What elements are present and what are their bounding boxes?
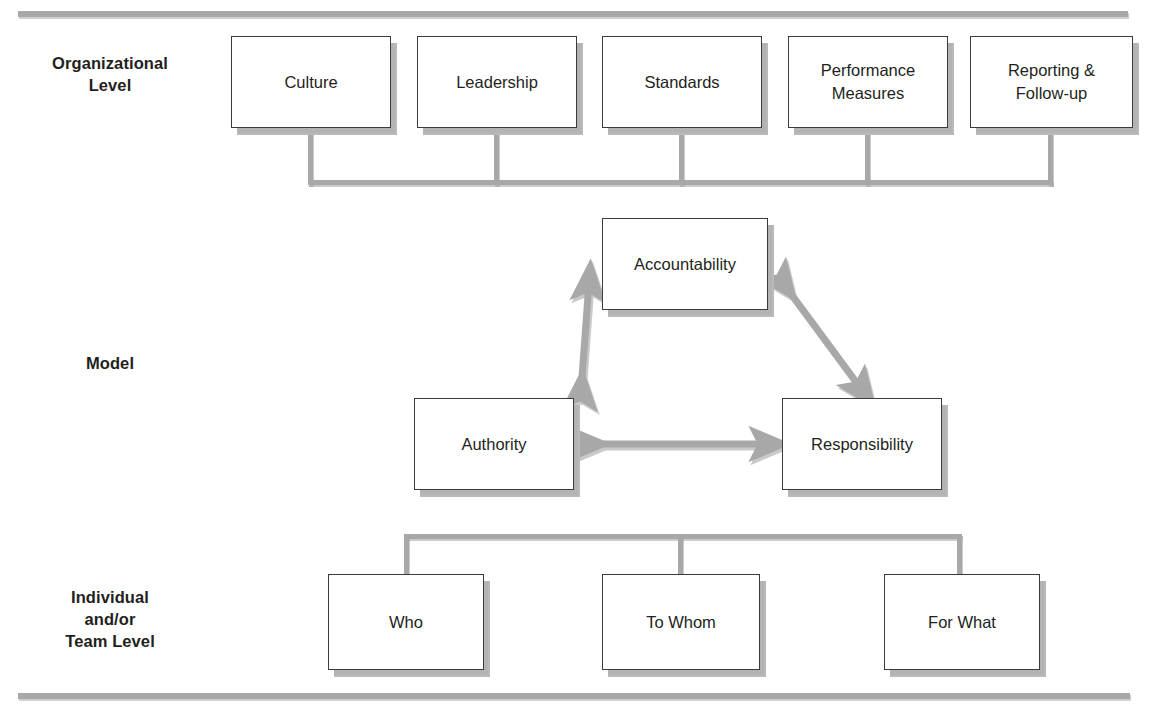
connector-stem-who [404,534,409,576]
node-for-what[interactable]: For What [884,574,1040,670]
node-culture[interactable]: Culture [231,36,391,128]
node-culture-label: Culture [280,71,341,94]
connector-stem-culture [308,128,313,185]
node-authority-label: Authority [457,433,530,456]
node-accountability-label: Accountability [630,253,740,276]
node-responsibility-label: Responsibility [807,433,917,456]
connector-stem-reporting [1048,128,1053,185]
node-accountability[interactable]: Accountability [602,218,768,310]
arrow-accountability-responsibility [783,283,862,390]
node-performance-measures[interactable]: Performance Measures [788,36,948,128]
node-leadership[interactable]: Leadership [417,36,577,128]
connector-stem-standards [679,128,684,185]
node-performance-measures-label: Performance Measures [817,59,919,105]
arrow-authority-accountability [581,282,589,391]
node-who[interactable]: Who [328,574,484,670]
top-divider-rule [18,11,1128,17]
node-for-what-label: For What [924,611,1000,634]
row-label-organizational-level: Organizational Level [0,52,220,96]
node-leadership-label: Leadership [452,71,542,94]
node-standards-label: Standards [640,71,723,94]
node-reporting-follow-up-label: Reporting & Follow-up [1004,59,1099,105]
node-to-whom[interactable]: To Whom [602,574,760,670]
node-responsibility[interactable]: Responsibility [782,398,942,490]
connector-stem-to-whom [678,534,683,576]
row-label-individual-team-level: Individual and/or Team Level [0,586,220,652]
connector-bar-organizational [308,180,1053,185]
connector-stem-leadership [494,128,499,185]
bottom-divider-rule [18,693,1130,699]
node-reporting-follow-up[interactable]: Reporting & Follow-up [970,36,1133,128]
row-label-model: Model [0,352,220,374]
connector-stem-for-what [957,534,962,576]
connector-bar-individual [404,534,962,539]
node-who-label: Who [385,611,427,634]
connector-stem-performance [865,128,870,185]
node-to-whom-label: To Whom [642,611,720,634]
diagram-canvas: Organizational Level Model Individual an… [0,0,1150,720]
node-standards[interactable]: Standards [602,36,762,128]
node-authority[interactable]: Authority [414,398,574,490]
